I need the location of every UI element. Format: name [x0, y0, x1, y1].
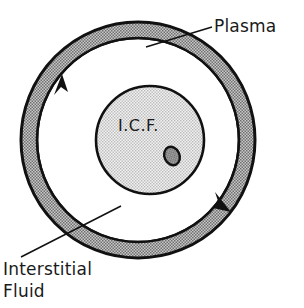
figure-canvas: Plasma InterstitialFluid I.C.F.: [0, 0, 304, 308]
icf-circle: [96, 86, 204, 194]
label-interstitial-line1: Interstitial: [3, 259, 92, 279]
label-interstitial-fluid: InterstitialFluid: [3, 258, 92, 302]
label-interstitial-line2: Fluid: [3, 280, 92, 302]
label-plasma: Plasma: [214, 16, 276, 36]
label-icf: I.C.F.: [118, 117, 159, 135]
